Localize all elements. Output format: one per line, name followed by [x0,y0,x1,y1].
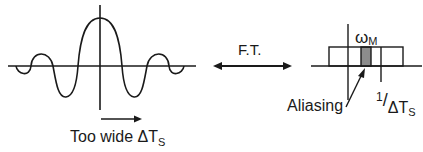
omega-sub: M [368,35,377,47]
arrow-head-left [213,62,222,70]
too-wide-delta-ts-caption: Too wide ΔTS [70,129,165,145]
delta-ts-arrow-head [134,116,142,123]
fourier-transform-arrow [213,62,292,70]
aliasing-label: Aliasing [287,98,343,114]
arrow-head-right [283,62,292,70]
ft-label: F.T. [238,42,261,57]
omega-m-label: ωM [355,29,377,46]
aliasing-overlap-region [361,47,371,66]
period-label: 1/ΔTS [376,93,416,111]
time-domain-plot [8,5,196,123]
period-delta: ΔT [388,99,408,116]
caption-main: Too wide [70,128,138,145]
caption-delta: ΔT [138,128,158,145]
fourier-aliasing-diagram [0,0,423,152]
period-slash: / [383,90,388,110]
aliasing-pointer-head [358,68,365,78]
period-sub: S [408,106,415,118]
period-numerator: 1 [376,90,383,104]
caption-sub: S [158,136,165,148]
omega-symbol: ω [355,28,368,47]
